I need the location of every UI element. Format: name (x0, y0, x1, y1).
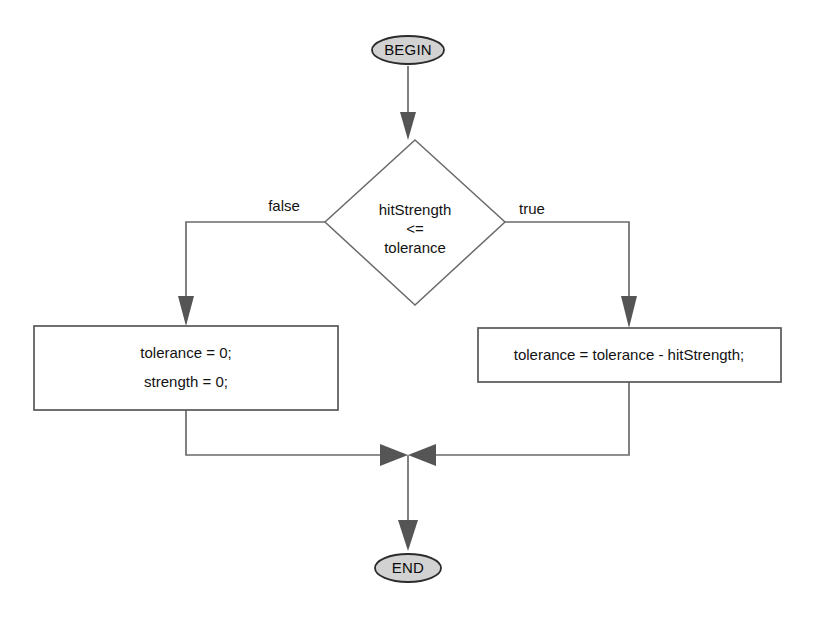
edge-true-box-to-merge-arrowhead (408, 444, 436, 466)
begin-label: BEGIN (384, 41, 432, 58)
end-label: END (392, 559, 424, 576)
edge-begin-to-decision (400, 66, 416, 140)
process-false-line1: tolerance = 0; (140, 344, 231, 361)
edge-label-false: false (268, 197, 300, 214)
edge-decision-true-line (505, 222, 629, 300)
decision-label-line3: tolerance (384, 239, 446, 256)
node-end[interactable]: END (375, 554, 441, 582)
process-false-line2: strength = 0; (144, 373, 228, 390)
edge-decision-false-line (186, 222, 325, 300)
edge-begin-to-decision-arrowhead (400, 112, 416, 140)
edge-true-box-to-merge (408, 382, 629, 466)
edge-false-box-to-merge-line (186, 410, 380, 455)
flowchart-svg: BEGIN hitStrength <= tolerance false tru… (0, 0, 817, 619)
edge-merge-to-end-arrowhead (398, 520, 418, 551)
node-begin[interactable]: BEGIN (372, 36, 444, 64)
edge-decision-false (178, 222, 325, 326)
process-true-line1: tolerance = tolerance - hitStrength; (514, 346, 745, 363)
edge-true-box-to-merge-line (436, 382, 629, 455)
node-process-true[interactable]: tolerance = tolerance - hitStrength; (478, 328, 781, 382)
node-decision[interactable]: hitStrength <= tolerance (325, 140, 505, 305)
edge-decision-true-arrowhead (621, 296, 637, 328)
edge-false-box-to-merge-arrowhead (380, 444, 408, 466)
process-false-rect[interactable] (34, 326, 338, 410)
decision-label-line2: <= (406, 220, 424, 237)
edge-decision-false-arrowhead (178, 296, 194, 326)
decision-label-line1: hitStrength (379, 201, 452, 218)
edge-label-true: true (519, 200, 545, 217)
edge-false-box-to-merge (186, 410, 408, 466)
flowchart-canvas: BEGIN hitStrength <= tolerance false tru… (0, 0, 817, 619)
edge-decision-true (505, 222, 637, 328)
node-process-false[interactable]: tolerance = 0; strength = 0; (34, 326, 338, 410)
edge-merge-to-end (398, 455, 418, 551)
